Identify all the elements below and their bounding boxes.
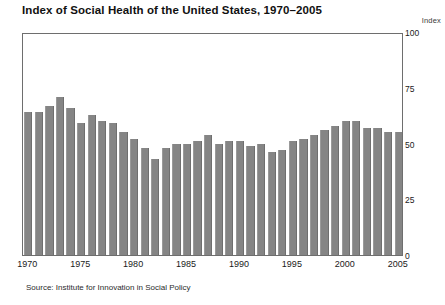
bar [352, 121, 360, 255]
bar [384, 132, 392, 255]
bar [151, 159, 159, 255]
x-tick-label: 2000 [335, 259, 355, 269]
x-tick-label: 1970 [17, 259, 37, 269]
bar [66, 108, 74, 255]
y-tick-label: 100 [405, 28, 419, 38]
bar [56, 97, 64, 255]
chart-figure: Index of Social Health of the United Sta… [0, 0, 445, 305]
bar [225, 141, 233, 255]
bar [88, 115, 96, 255]
y-axis: 0255075100 [405, 33, 445, 256]
bar [183, 144, 191, 256]
bar [320, 130, 328, 255]
bar [193, 141, 201, 255]
source-note: Source: Institute for Innovation in Soci… [26, 283, 191, 292]
bar [172, 144, 180, 256]
x-tick-label: 1980 [123, 259, 143, 269]
x-tick-label: 2005 [388, 259, 408, 269]
bar-series [23, 34, 402, 255]
bar [24, 112, 32, 255]
bar [141, 148, 149, 255]
bar [77, 123, 85, 255]
bar [215, 144, 223, 256]
x-tick-label: 1985 [176, 259, 196, 269]
bar [119, 132, 127, 255]
x-tick-label: 1975 [70, 259, 90, 269]
bar [310, 135, 318, 255]
bar [289, 141, 297, 255]
bar [257, 144, 265, 256]
bar [278, 150, 286, 255]
bar [162, 148, 170, 255]
y-tick-label: 50 [405, 140, 414, 150]
bar [45, 106, 53, 255]
y-tick-label: 25 [405, 195, 414, 205]
bar [268, 152, 276, 255]
x-tick-label: 1990 [229, 259, 249, 269]
bar [109, 123, 117, 255]
bar [246, 146, 254, 255]
plot-area [22, 33, 403, 256]
bar [35, 112, 43, 255]
chart-title: Index of Social Health of the United Sta… [22, 4, 322, 16]
x-tick-label: 1995 [282, 259, 302, 269]
bar [395, 132, 403, 255]
bar [363, 128, 371, 255]
bar [98, 121, 106, 255]
bar [204, 135, 212, 255]
bar [299, 139, 307, 255]
bar [342, 121, 350, 255]
y-tick-label: 75 [405, 84, 414, 94]
bar [236, 141, 244, 255]
bar [331, 126, 339, 255]
x-axis: 19701975198019851990199520002005 [22, 259, 403, 275]
y-axis-unit-label: Index [422, 16, 441, 25]
bar [373, 128, 381, 255]
bar [130, 139, 138, 255]
